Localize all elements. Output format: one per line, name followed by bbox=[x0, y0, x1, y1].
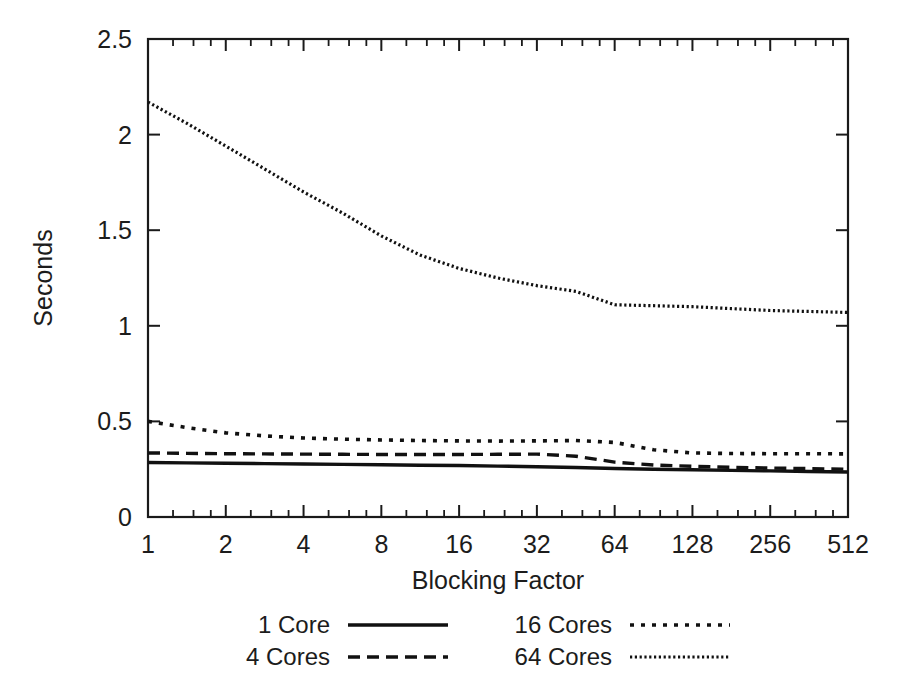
x-tick-label: 4 bbox=[297, 530, 311, 558]
series-line bbox=[148, 421, 848, 454]
y-tick-label: 0.5 bbox=[97, 407, 132, 435]
x-tick-label: 128 bbox=[672, 530, 714, 558]
x-tick-label: 256 bbox=[749, 530, 791, 558]
y-tick-label: 2.5 bbox=[97, 25, 132, 53]
series-line bbox=[148, 102, 848, 312]
x-tick-label: 2 bbox=[219, 530, 233, 558]
y-tick-label: 0 bbox=[118, 503, 132, 531]
legend-label: 4 Cores bbox=[246, 643, 330, 670]
x-tick-label: 64 bbox=[601, 530, 629, 558]
y-tick-label: 1 bbox=[118, 312, 132, 340]
y-tick-label: 1.5 bbox=[97, 216, 132, 244]
x-tick-label: 32 bbox=[523, 530, 551, 558]
x-tick-label: 16 bbox=[445, 530, 473, 558]
line-chart: 00.511.522.5 1248163264128256512 Seconds… bbox=[0, 0, 902, 687]
legend-label: 16 Cores bbox=[515, 611, 612, 638]
y-tick-label: 2 bbox=[118, 121, 132, 149]
data-series-group bbox=[148, 102, 848, 472]
x-tick-label: 8 bbox=[374, 530, 388, 558]
legend-label: 1 Core bbox=[258, 611, 330, 638]
chart-legend: 1 Core16 Cores4 Cores64 Cores bbox=[246, 611, 730, 670]
x-tick-label: 512 bbox=[827, 530, 869, 558]
plot-frame bbox=[148, 39, 848, 517]
legend-label: 64 Cores bbox=[515, 643, 612, 670]
x-axis-label: Blocking Factor bbox=[412, 566, 584, 594]
x-tick-label: 1 bbox=[141, 530, 155, 558]
y-axis-label: Seconds bbox=[29, 229, 57, 326]
x-axis-ticks: 1248163264128256512 bbox=[141, 39, 869, 558]
chart-figure: 00.511.522.5 1248163264128256512 Seconds… bbox=[0, 0, 902, 687]
